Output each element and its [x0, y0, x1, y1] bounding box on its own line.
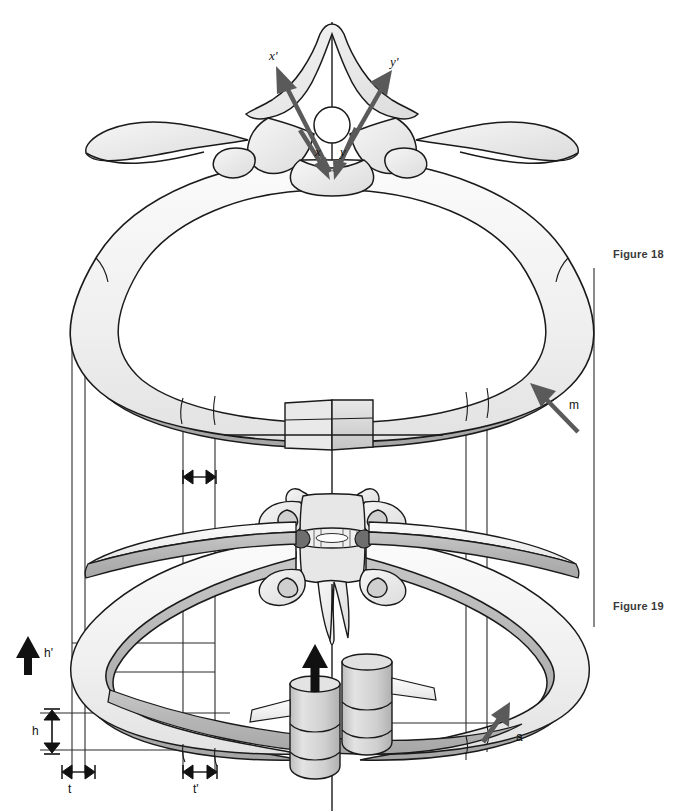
anatomical-diagram-svg: x' y' x y m — [0, 0, 690, 811]
dimension-label-h: h — [32, 724, 39, 738]
dimension-label-t: t — [68, 782, 72, 796]
intervertebral-disc — [290, 528, 374, 548]
dimension-t-prime — [183, 765, 217, 779]
dimension-mid-span — [183, 470, 216, 484]
dimension-label-t-prime: t' — [193, 782, 199, 796]
dimension-t — [62, 765, 95, 779]
dimension-h — [44, 709, 60, 754]
vector-label-m: m — [569, 398, 579, 412]
dimension-h-prime — [16, 636, 40, 675]
axis-label-x-prime: x' — [268, 48, 278, 63]
axis-label-y-prime: y' — [388, 54, 399, 69]
vector-label-a: a — [516, 730, 523, 744]
figure-19-caption: Figure 19 — [613, 600, 664, 612]
axis-label-y: y — [338, 144, 346, 159]
axis-label-x: x — [314, 144, 321, 159]
dimension-label-h-prime: h' — [44, 646, 53, 660]
figure-canvas: x' y' x y m — [0, 0, 690, 811]
figure-18-caption: Figure 18 — [613, 248, 664, 260]
